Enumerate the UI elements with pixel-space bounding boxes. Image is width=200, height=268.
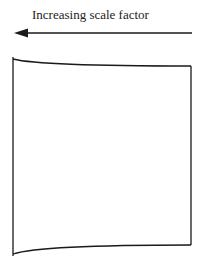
- distorted-square: [13, 57, 191, 256]
- scale-arrow: [14, 29, 192, 38]
- arrow-head-left-icon: [14, 29, 28, 38]
- diagram-canvas: [0, 0, 200, 268]
- bottom-curved-edge: [13, 245, 191, 254]
- top-curved-edge: [13, 59, 191, 66]
